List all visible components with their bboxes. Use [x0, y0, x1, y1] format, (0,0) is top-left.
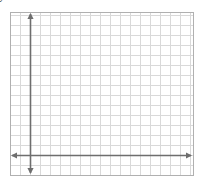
coordinate-plane-svg: x y O	[0, 0, 200, 181]
origin-label: O	[0, 0, 9, 3]
geometry-figure: x y O	[0, 0, 200, 181]
